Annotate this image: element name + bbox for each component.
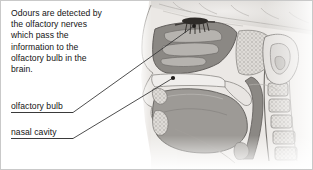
- caption-line-3: which pass the: [11, 30, 133, 41]
- callout-nasal-cavity: nasal cavity: [11, 125, 73, 139]
- callout-olfactory-bulb: olfactory bulb: [11, 99, 73, 113]
- callout-nasal-cavity-label: nasal cavity: [11, 127, 57, 137]
- caption-line-1: Odours are detected by: [11, 8, 133, 19]
- anatomy-illustration: [139, 1, 313, 169]
- caption-line-2: the olfactory nerves: [11, 19, 133, 30]
- callout-olfactory-bulb-underline: [11, 112, 73, 113]
- caption-line-4: information to the: [11, 42, 133, 53]
- caption-line-5: olfactory bulb in the: [11, 53, 133, 64]
- caption-line-6: brain.: [11, 64, 133, 75]
- caption-text: Odours are detected by the olfactory ner…: [11, 8, 133, 75]
- figure-container: Odours are detected by the olfactory ner…: [0, 0, 313, 170]
- callout-nasal-cavity-underline: [11, 138, 73, 139]
- callout-olfactory-bulb-label: olfactory bulb: [11, 101, 63, 111]
